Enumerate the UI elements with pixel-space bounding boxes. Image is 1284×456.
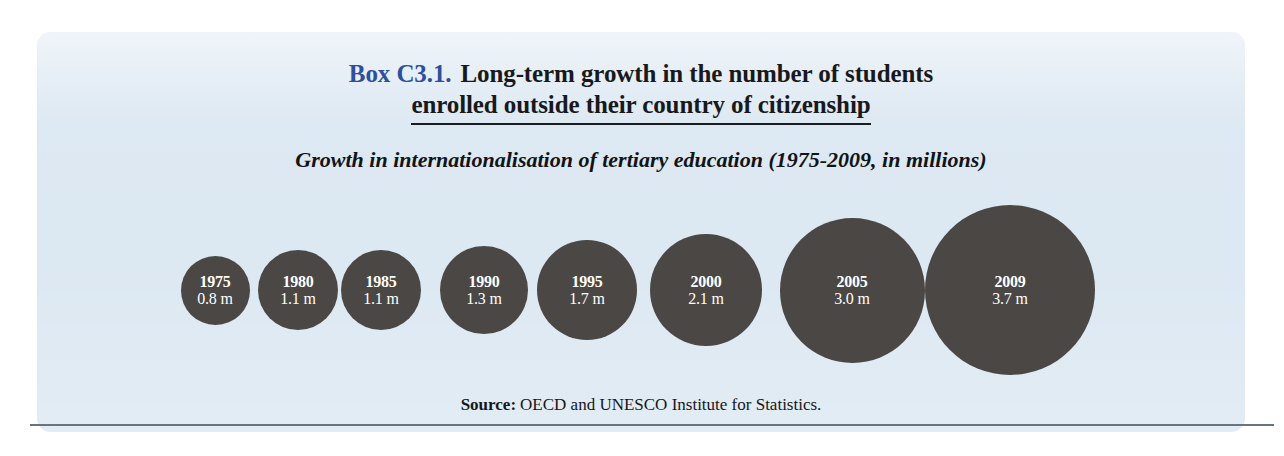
bubble-1980: 19801.1 m <box>258 250 338 330</box>
bubble-year-label: 2005 <box>836 273 867 290</box>
bubble-value-label: 3.0 m <box>834 290 869 307</box>
bubble-year-label: 1990 <box>468 273 499 290</box>
bubble-value-label: 1.1 m <box>363 290 398 307</box>
bubble-2009: 20093.7 m <box>925 205 1095 375</box>
source-label: Source: <box>461 395 516 414</box>
bubble-1995: 19951.7 m <box>537 240 637 340</box>
bubble-year-label: 1995 <box>571 273 602 290</box>
bubble-1975: 19750.8 m <box>181 256 250 325</box>
box-panel: Box C3.1.Long-term growth in the number … <box>37 32 1245 432</box>
bubble-year-label: 1975 <box>199 273 230 290</box>
bottom-divider <box>30 424 1274 426</box>
bubble-value-label: 3.7 m <box>992 290 1027 307</box>
bubble-value-label: 1.7 m <box>569 290 604 307</box>
bubble-value-label: 0.8 m <box>197 290 232 307</box>
bubble-value-label: 1.1 m <box>280 290 315 307</box>
bubble-chart: 19750.8 m19801.1 m19851.1 m19901.3 m1995… <box>37 32 1245 432</box>
bubble-year-label: 1985 <box>365 273 396 290</box>
bubble-2000: 20002.1 m <box>650 234 762 346</box>
bubble-year-label: 2009 <box>994 273 1025 290</box>
bubble-value-label: 1.3 m <box>466 290 501 307</box>
source-text: OECD and UNESCO Institute for Statistics… <box>520 395 821 414</box>
bubble-year-label: 2000 <box>690 273 721 290</box>
bubble-2005: 20053.0 m <box>780 218 925 363</box>
bubble-1990: 19901.3 m <box>440 246 528 334</box>
bubble-1985: 19851.1 m <box>341 250 421 330</box>
source-note: Source:OECD and UNESCO Institute for Sta… <box>37 395 1245 415</box>
bubble-value-label: 2.1 m <box>688 290 723 307</box>
bubble-year-label: 1980 <box>282 273 313 290</box>
